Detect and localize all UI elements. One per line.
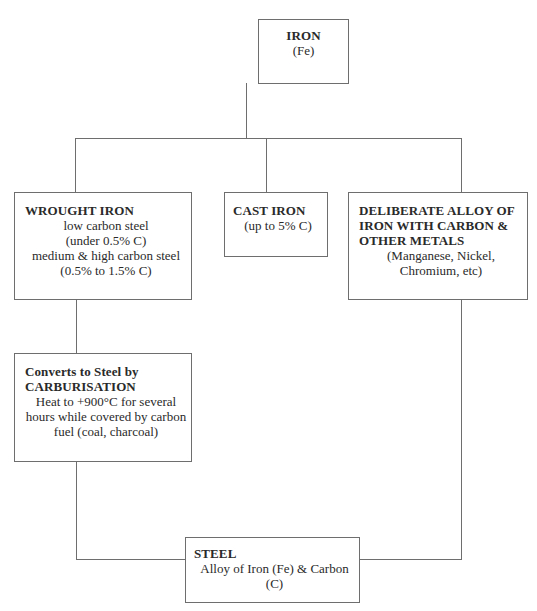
connector-wrought-to-carburisation (76, 299, 77, 353)
connector-carburisation-down (76, 461, 77, 560)
node-steel-title: STEEL (194, 546, 355, 561)
node-wrought-iron-line: (under 0.5% C) (25, 233, 187, 248)
node-deliberate-alloy: DELIBERATE ALLOY OF IRON WITH CARBON & O… (348, 192, 528, 300)
node-carburisation: Converts to Steel by CARBURISATION Heat … (14, 353, 192, 462)
connector-to-cast-iron (266, 138, 267, 192)
node-carburisation-line: Heat to +900°C for several (25, 394, 187, 409)
node-wrought-iron-title: WROUGHT IRON (25, 203, 187, 218)
node-steel: STEEL Alloy of Iron (Fe) & Carbon (C) (185, 537, 360, 603)
node-cast-iron: CAST IRON (up to 5% C) (224, 192, 328, 257)
connector-carburisation-to-steel (76, 559, 186, 560)
connector-to-wrought-iron (75, 138, 76, 192)
node-iron-title: IRON (259, 28, 348, 43)
node-steel-line: (C) (194, 576, 355, 591)
node-wrought-iron: WROUGHT IRON low carbon steel (under 0.5… (14, 192, 192, 300)
connector-deliberate-to-steel (359, 559, 462, 560)
connector-iron-down (246, 83, 247, 139)
node-deliberate-alloy-line: Chromium, etc) (359, 263, 523, 278)
node-carburisation-line: fuel (coal, charcoal) (25, 424, 187, 439)
node-deliberate-alloy-line: (Manganese, Nickel, (359, 248, 523, 263)
node-wrought-iron-line: (0.5% to 1.5% C) (25, 263, 187, 278)
node-carburisation-line: hours while covered by carbon (25, 409, 187, 424)
node-cast-iron-line: (up to 5% C) (233, 218, 323, 233)
node-carburisation-title: CARBURISATION (25, 379, 187, 394)
node-deliberate-alloy-title: IRON WITH CARBON & (359, 218, 523, 233)
node-iron: IRON (Fe) (258, 19, 349, 84)
connector-deliberate-down (461, 299, 462, 560)
node-iron-line: (Fe) (259, 43, 348, 58)
connector-to-deliberate-alloy (461, 138, 462, 192)
connector-horizontal-bus (75, 138, 461, 139)
node-carburisation-title: Converts to Steel by (25, 364, 187, 379)
node-deliberate-alloy-title: OTHER METALS (359, 233, 523, 248)
node-wrought-iron-line: medium & high carbon steel (25, 248, 187, 263)
node-wrought-iron-line: low carbon steel (25, 218, 187, 233)
node-cast-iron-title: CAST IRON (233, 203, 323, 218)
node-deliberate-alloy-title: DELIBERATE ALLOY OF (359, 203, 523, 218)
node-steel-line: Alloy of Iron (Fe) & Carbon (194, 561, 355, 576)
